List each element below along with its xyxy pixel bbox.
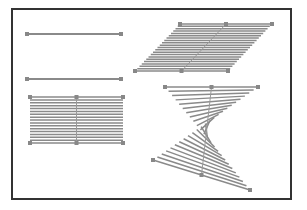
parallelogram-hatch[interactable]: [133, 22, 274, 73]
twisted-bowtie-hatch[interactable]: [151, 85, 260, 192]
figure-canvas: [0, 0, 307, 210]
anchor-handle[interactable]: [248, 188, 252, 192]
anchor-handle[interactable]: [180, 69, 184, 73]
anchor-handle[interactable]: [256, 85, 260, 89]
rectangle-hatch[interactable]: [28, 95, 125, 145]
single-line-top[interactable]: [25, 32, 123, 36]
anchor-handle[interactable]: [119, 77, 123, 81]
anchor-handle[interactable]: [163, 85, 167, 89]
anchor-handle[interactable]: [270, 22, 274, 26]
anchor-handle[interactable]: [119, 32, 123, 36]
anchor-handle[interactable]: [75, 95, 79, 99]
anchor-handle[interactable]: [28, 141, 32, 145]
anchor-handle[interactable]: [25, 77, 29, 81]
anchor-handle[interactable]: [121, 95, 125, 99]
anchor-handle[interactable]: [200, 173, 204, 177]
anchor-handle[interactable]: [226, 69, 230, 73]
anchor-handle[interactable]: [75, 141, 79, 145]
anchor-handle[interactable]: [224, 22, 228, 26]
anchor-handle[interactable]: [25, 32, 29, 36]
anchor-handle[interactable]: [151, 158, 155, 162]
anchor-handle[interactable]: [121, 141, 125, 145]
single-line-middle[interactable]: [25, 77, 123, 81]
anchor-handle[interactable]: [210, 85, 214, 89]
anchor-handle[interactable]: [178, 22, 182, 26]
anchor-handle[interactable]: [133, 69, 137, 73]
anchor-handle[interactable]: [28, 95, 32, 99]
